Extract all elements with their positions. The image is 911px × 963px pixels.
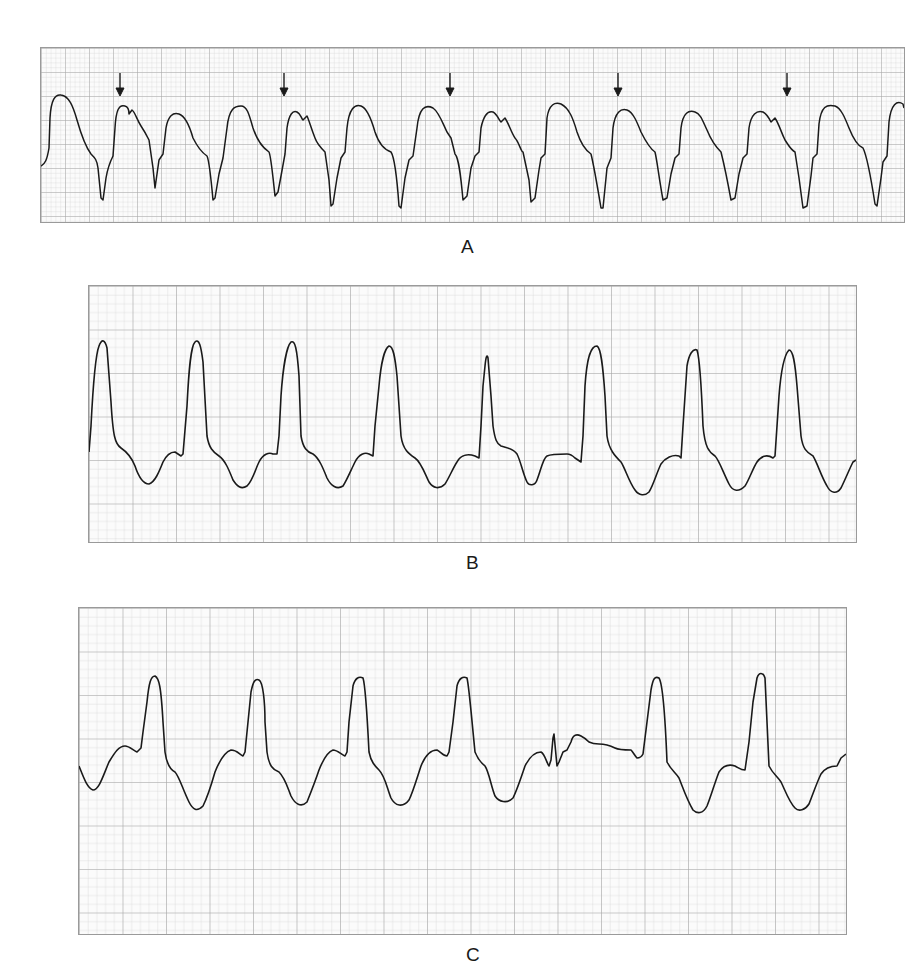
ecg-grid bbox=[79, 608, 846, 934]
panel-label-b: B bbox=[466, 552, 479, 574]
ecg-strip-b bbox=[88, 285, 857, 543]
ecg-grid bbox=[89, 286, 856, 542]
ecg-strip-c bbox=[78, 607, 847, 935]
panel-label-c: C bbox=[466, 944, 480, 963]
ecg-grid bbox=[41, 48, 904, 222]
ecg-chart-a bbox=[41, 48, 904, 222]
ecg-strip-a bbox=[40, 47, 905, 223]
ecg-chart-c bbox=[79, 608, 846, 934]
ecg-chart-b bbox=[89, 286, 856, 542]
panel-label-a: A bbox=[461, 236, 474, 258]
